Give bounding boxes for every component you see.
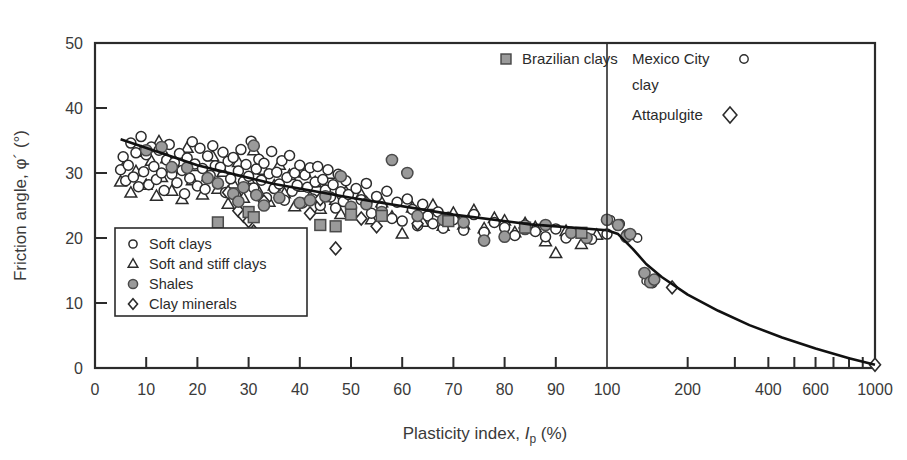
data-marker-open-circle (128, 172, 138, 182)
data-marker-filled-circle (212, 178, 223, 189)
data-marker-open-circle (159, 186, 169, 196)
data-marker-filled-circle (238, 182, 249, 193)
data-marker-open-circle (241, 160, 251, 170)
x-axis-title: Plasticity index, Ip (%) (403, 424, 567, 446)
x-tick-label: 90 (547, 381, 565, 398)
data-marker-filled-circle (251, 190, 262, 201)
chart-figure: 0102030405001020304050607080901002004006… (0, 0, 907, 460)
x-tick-label: 100 (594, 381, 621, 398)
data-marker-open-circle (285, 150, 295, 160)
y-tick-label: 30 (65, 165, 83, 182)
annotation-mexico-city: Mexico City (632, 50, 710, 67)
data-marker-filled-square (315, 220, 326, 231)
legend-label: Soft and stiff clays (149, 256, 266, 272)
legend-label: Shales (149, 276, 193, 292)
data-marker-filled-square (501, 54, 511, 64)
data-marker-open-circle (134, 182, 144, 192)
data-marker-filled-circle (402, 167, 413, 178)
data-marker-open-circle (541, 232, 551, 242)
data-marker-open-circle (272, 167, 282, 177)
data-marker-filled-circle (479, 235, 490, 246)
data-marker-open-circle (372, 191, 382, 201)
y-tick-label: 40 (65, 100, 83, 117)
data-marker-filled-square (330, 221, 341, 232)
x-tick-label: 40 (291, 381, 309, 398)
data-marker-filled-circle (166, 162, 177, 173)
data-marker-open-circle (136, 132, 146, 142)
data-marker-open-circle (236, 145, 246, 155)
data-marker-filled-circle (458, 217, 469, 228)
data-marker-open-circle (208, 141, 218, 151)
data-marker-open-circle (228, 152, 238, 162)
data-marker-filled-circle (202, 173, 213, 184)
data-marker-filled-circle (499, 231, 510, 242)
data-marker-filled-square (376, 211, 387, 222)
data-marker-open-diamond (305, 207, 316, 220)
data-marker-open-diamond (356, 212, 367, 225)
x-tick-label: 600 (802, 381, 829, 398)
plot-border (95, 43, 875, 368)
data-marker-filled-circle (248, 140, 259, 151)
data-marker-filled-circle (412, 210, 423, 221)
y-axis-title: Friction angle, φ´ (°) (11, 130, 30, 281)
y-tick-label: 0 (74, 360, 83, 377)
data-marker-open-circle (218, 147, 228, 157)
data-marker-open-circle (131, 148, 141, 158)
data-marker-open-circle (323, 165, 333, 175)
data-marker-filled-circle (304, 195, 315, 206)
data-marker-open-circle (351, 184, 361, 194)
data-marker-filled-square (443, 216, 454, 227)
data-marker-open-circle (318, 175, 328, 185)
x-tick-label: 80 (496, 381, 514, 398)
data-marker-open-circle (402, 194, 412, 204)
data-marker-filled-circle (128, 279, 137, 288)
annotations: Brazilian claysMexico CityclayAttapulgit… (501, 50, 748, 123)
x-tick-label: 30 (240, 381, 258, 398)
y-tick-label: 50 (65, 35, 83, 52)
annotation-attapulgite: Attapulgite (632, 106, 703, 123)
data-marker-open-circle (387, 214, 397, 224)
data-marker-open-circle (203, 151, 213, 161)
data-marker-open-circle (139, 167, 149, 177)
data-marker-open-triangle (396, 228, 408, 238)
data-marker-open-circle (382, 186, 392, 196)
data-marker-open-circle (259, 158, 269, 168)
y-tick-label: 20 (65, 230, 83, 247)
legend-label: Soft clays (149, 236, 212, 252)
legend-label: Clay minerals (149, 296, 237, 312)
x-tick-label: 50 (342, 381, 360, 398)
axis-ticks (95, 43, 875, 368)
x-tick-label: 10 (137, 381, 155, 398)
data-marker-open-circle (361, 178, 371, 188)
legend-box: Soft claysSoft and stiff claysShalesClay… (115, 228, 307, 316)
plot-frame (95, 43, 875, 368)
data-marker-open-diamond (723, 107, 737, 123)
data-marker-filled-circle (386, 154, 397, 165)
x-tick-label: 200 (674, 381, 701, 398)
data-marker-open-circle (295, 160, 305, 170)
x-tick-label: 70 (445, 381, 463, 398)
data-marker-filled-circle (294, 197, 305, 208)
x-tick-label: 20 (189, 381, 207, 398)
data-marker-open-circle (510, 230, 520, 240)
data-marker-open-circle (172, 178, 182, 188)
y-tick-label: 10 (65, 295, 83, 312)
data-marker-open-circle (180, 189, 190, 199)
data-marker-filled-circle (625, 229, 636, 240)
data-marker-filled-circle (274, 192, 285, 203)
data-marker-filled-circle (335, 171, 346, 182)
data-marker-open-circle (157, 168, 167, 178)
data-marker-open-circle (428, 219, 438, 229)
data-marker-open-circle (195, 143, 205, 153)
x-tick-label: 60 (393, 381, 411, 398)
data-marker-filled-circle (233, 196, 244, 207)
data-marker-open-circle (129, 240, 137, 248)
data-marker-open-circle (313, 162, 323, 172)
data-marker-open-triangle (550, 247, 562, 257)
x-tick-label: 0 (91, 381, 100, 398)
data-marker-filled-square (212, 217, 223, 228)
data-marker-open-circle (267, 147, 277, 157)
x-tick-label: 400 (755, 381, 782, 398)
data-marker-open-circle (123, 160, 133, 170)
x-tick-label: 1000 (857, 381, 893, 398)
